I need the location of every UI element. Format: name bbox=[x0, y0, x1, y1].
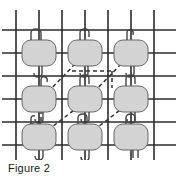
node-body bbox=[114, 86, 148, 112]
node-hook-top-icon bbox=[41, 77, 47, 86]
figure-container: Figure 2 bbox=[0, 0, 178, 183]
node-body bbox=[68, 124, 102, 150]
lattice-nodes bbox=[22, 29, 148, 160]
node-hook-top-icon bbox=[127, 30, 133, 40]
node-body bbox=[22, 124, 56, 150]
node-body bbox=[68, 40, 102, 66]
node-body bbox=[22, 86, 56, 112]
node-body bbox=[22, 40, 56, 66]
node-body bbox=[114, 124, 148, 150]
lattice-diagram bbox=[0, 0, 178, 160]
node-hook-bottom-icon bbox=[133, 150, 138, 158]
figure-caption: Figure 2 bbox=[8, 162, 50, 175]
node-body bbox=[114, 40, 148, 66]
node-body bbox=[68, 86, 102, 112]
